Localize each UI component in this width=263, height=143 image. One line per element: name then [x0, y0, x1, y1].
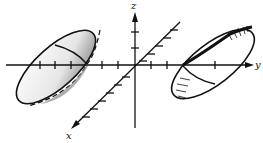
left-surface [5, 19, 106, 116]
z-axis [131, 12, 139, 128]
x-axis-label: x [66, 130, 72, 141]
axes-diagram: z y x [0, 0, 263, 143]
diagram-canvas: z y x [0, 0, 263, 143]
z-axis-label: z [130, 0, 137, 11]
y-axis-label: y [254, 59, 261, 70]
